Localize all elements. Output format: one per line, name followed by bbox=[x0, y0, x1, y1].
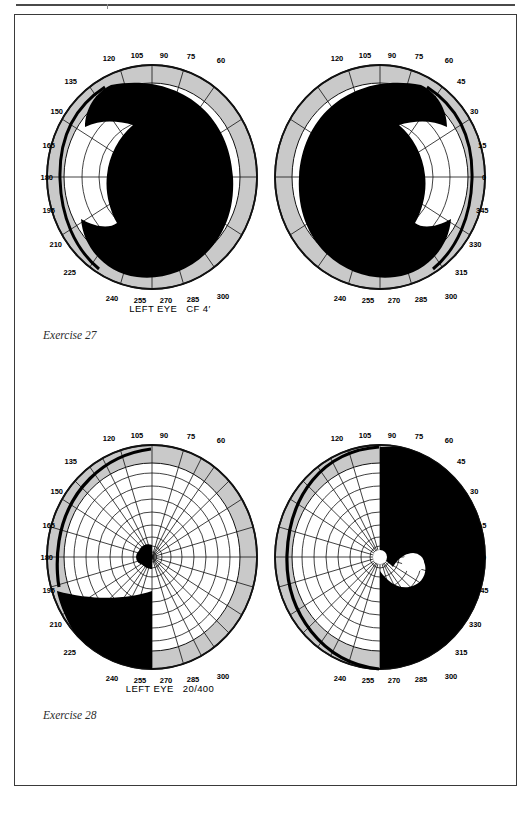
svg-text:210: 210 bbox=[49, 620, 62, 629]
charts-row-27: 120 105 90 75 60 240 255 270 285 bbox=[15, 51, 516, 303]
svg-text:45: 45 bbox=[457, 77, 465, 86]
svg-text:285: 285 bbox=[187, 295, 200, 303]
svg-text:240: 240 bbox=[106, 674, 119, 683]
chart-caption-left-eye-27: LEFT EYE CF 4′ bbox=[51, 303, 289, 314]
exercise-block-27: 120 105 90 75 60 240 255 270 285 bbox=[15, 51, 516, 356]
svg-text:225: 225 bbox=[63, 268, 76, 277]
svg-text:225: 225 bbox=[63, 648, 76, 657]
visual-field-chart-right-eye-28[interactable]: 120 105 90 75 60 240 255 270 285 bbox=[261, 431, 499, 683]
svg-text:30: 30 bbox=[470, 487, 478, 496]
figure-page: 120 105 90 75 60 240 255 270 285 bbox=[0, 0, 531, 813]
chart-caption-left-eye-28: LEFT EYE 20/400 bbox=[51, 683, 289, 694]
svg-text:240: 240 bbox=[106, 294, 119, 303]
exercise-label-28: Exercise 28 bbox=[43, 709, 97, 721]
svg-text:75: 75 bbox=[187, 52, 195, 61]
svg-text:240: 240 bbox=[334, 294, 347, 303]
svg-text:345: 345 bbox=[476, 586, 489, 595]
svg-text:330: 330 bbox=[469, 620, 482, 629]
svg-text:150: 150 bbox=[50, 107, 63, 116]
visual-field-chart-right-eye-27[interactable]: 120 105 90 75 60 240 255 270 285 bbox=[261, 51, 499, 303]
visual-field-chart-left-eye-28[interactable]: 120 105 90 75 60 240 255 270 285 bbox=[33, 431, 271, 683]
svg-text:105: 105 bbox=[359, 51, 372, 60]
svg-text:60: 60 bbox=[445, 436, 453, 445]
svg-text:270: 270 bbox=[160, 676, 173, 683]
svg-text:270: 270 bbox=[388, 676, 401, 683]
svg-text:255: 255 bbox=[362, 296, 375, 303]
page-top-tick bbox=[107, 4, 108, 9]
svg-text:300: 300 bbox=[445, 672, 458, 681]
figure-frame: 120 105 90 75 60 240 255 270 285 bbox=[14, 14, 517, 786]
svg-text:90: 90 bbox=[388, 431, 396, 440]
svg-text:300: 300 bbox=[217, 672, 230, 681]
svg-text:30: 30 bbox=[470, 107, 478, 116]
svg-text:300: 300 bbox=[217, 292, 230, 301]
svg-text:120: 120 bbox=[103, 434, 116, 443]
svg-text:195: 195 bbox=[42, 586, 55, 595]
visual-field-chart-left-eye-27[interactable]: 120 105 90 75 60 240 255 270 285 bbox=[33, 51, 271, 303]
svg-text:15: 15 bbox=[478, 141, 486, 150]
svg-text:180: 180 bbox=[40, 173, 53, 182]
svg-text:105: 105 bbox=[359, 431, 372, 440]
svg-text:240: 240 bbox=[334, 674, 347, 683]
svg-text:75: 75 bbox=[187, 432, 195, 441]
svg-text:105: 105 bbox=[131, 431, 144, 440]
exercise-block-28: 120 105 90 75 60 240 255 270 285 bbox=[15, 431, 516, 736]
svg-text:75: 75 bbox=[415, 432, 423, 441]
svg-text:330: 330 bbox=[469, 240, 482, 249]
svg-text:60: 60 bbox=[217, 56, 225, 65]
svg-text:180: 180 bbox=[40, 553, 53, 562]
chart-caption-right-eye-28: RIGHT EYE 20/20 bbox=[507, 683, 531, 694]
svg-text:0: 0 bbox=[482, 553, 486, 562]
svg-text:120: 120 bbox=[331, 54, 344, 63]
svg-text:0: 0 bbox=[482, 173, 486, 182]
svg-text:165: 165 bbox=[42, 521, 55, 530]
svg-text:90: 90 bbox=[160, 431, 168, 440]
svg-text:195: 195 bbox=[42, 206, 55, 215]
svg-text:60: 60 bbox=[445, 56, 453, 65]
svg-text:150: 150 bbox=[50, 487, 63, 496]
svg-text:165: 165 bbox=[42, 141, 55, 150]
svg-text:120: 120 bbox=[103, 54, 116, 63]
svg-text:345: 345 bbox=[476, 206, 489, 215]
svg-text:315: 315 bbox=[455, 648, 468, 657]
svg-text:135: 135 bbox=[64, 77, 77, 86]
svg-text:90: 90 bbox=[388, 51, 396, 60]
svg-text:270: 270 bbox=[388, 296, 401, 303]
svg-text:210: 210 bbox=[49, 240, 62, 249]
svg-text:15: 15 bbox=[478, 521, 486, 530]
svg-text:45: 45 bbox=[457, 457, 465, 466]
svg-text:60: 60 bbox=[217, 436, 225, 445]
charts-row-28: 120 105 90 75 60 240 255 270 285 bbox=[15, 431, 516, 683]
svg-text:300: 300 bbox=[445, 292, 458, 301]
svg-text:255: 255 bbox=[362, 676, 375, 683]
svg-text:285: 285 bbox=[415, 295, 428, 303]
figure-body: 120 105 90 75 60 240 255 270 285 bbox=[15, 15, 516, 785]
svg-text:255: 255 bbox=[134, 676, 147, 683]
svg-text:270: 270 bbox=[160, 296, 173, 303]
svg-text:90: 90 bbox=[160, 51, 168, 60]
svg-text:285: 285 bbox=[415, 675, 428, 683]
svg-text:285: 285 bbox=[187, 675, 200, 683]
svg-text:105: 105 bbox=[131, 51, 144, 60]
svg-text:135: 135 bbox=[64, 457, 77, 466]
svg-text:120: 120 bbox=[331, 434, 344, 443]
svg-text:255: 255 bbox=[134, 296, 147, 303]
svg-text:75: 75 bbox=[415, 52, 423, 61]
exercise-label-27: Exercise 27 bbox=[43, 329, 97, 341]
page-top-rule bbox=[16, 4, 515, 6]
chart-caption-right-eye-27: RIGHT EYE CF 6′ bbox=[507, 303, 531, 314]
svg-text:315: 315 bbox=[455, 268, 468, 277]
